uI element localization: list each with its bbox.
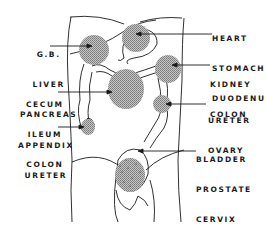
region-bladder-prostate-cervix-rectum	[115, 158, 145, 192]
pain-regions	[79, 24, 181, 192]
label-line: CERVIX	[196, 215, 252, 225]
label-line: APPENDIX	[18, 141, 74, 151]
label-appendix-ureter: APPENDIX URETER	[18, 121, 74, 201]
referred-pain-diagram: G.B. LIVER PANCREAS HEART STOMACH DUODEN…	[0, 0, 266, 238]
label-line: CECUM	[26, 100, 64, 110]
label-line: PROSTATE	[196, 185, 252, 195]
label-line: G.B.	[20, 50, 77, 60]
region-gb-liver-pancreas	[79, 35, 109, 65]
label-line: KIDNEY	[210, 80, 251, 90]
region-kidney-colon	[155, 55, 181, 83]
label-bladder-prostate-cervix-rectum: BLADDER PROSTATE CERVIX RECTUM	[196, 135, 252, 238]
label-line: HEART	[212, 34, 266, 44]
label-line: URETER	[18, 171, 74, 181]
label-line: BLADDER	[196, 155, 252, 165]
region-heart-stomach-duodenum	[122, 24, 150, 52]
label-line: URETER	[208, 116, 251, 126]
region-cecum-ileum-colon	[108, 69, 144, 109]
